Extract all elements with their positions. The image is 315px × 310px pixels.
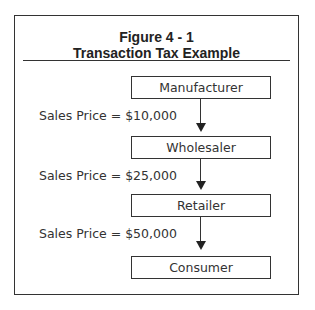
node-consumer: Consumer [131, 256, 271, 279]
node-wholesaler: Wholesaler [131, 136, 271, 159]
edge-label-3: Sales Price = $50,000 [39, 226, 177, 241]
node-manufacturer: Manufacturer [131, 76, 271, 99]
arrow-down-icon [196, 181, 206, 190]
figure-number: Figure 4 - 1 [15, 29, 298, 45]
figure-frame: Figure 4 - 1 Transaction Tax Example Man… [14, 15, 299, 295]
figure-title: Transaction Tax Example [15, 45, 298, 61]
title-divider [23, 60, 290, 61]
edge-label-2: Sales Price = $25,000 [39, 168, 177, 183]
node-retailer: Retailer [131, 194, 271, 217]
edge-label-1: Sales Price = $10,000 [39, 108, 177, 123]
arrow-down-icon [196, 123, 206, 132]
arrow-down-icon [196, 241, 206, 250]
